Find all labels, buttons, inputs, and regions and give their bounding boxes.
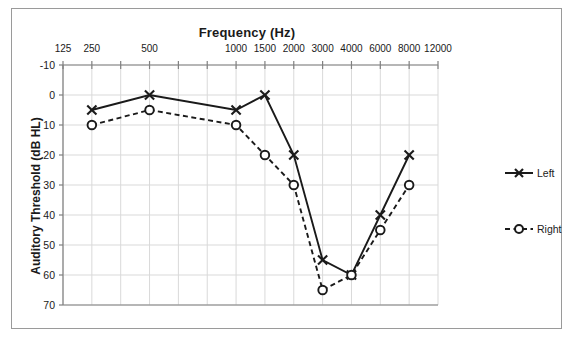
audiogram-figure: Frequency (Hz) Auditory Threshold (dB HL… (0, 0, 575, 345)
marker-circle (145, 106, 154, 115)
plot-area (12, 9, 563, 330)
data-series-layer (87, 90, 414, 294)
gridlines (63, 65, 438, 305)
legend-item-right[interactable]: Right (504, 220, 575, 238)
marker-circle (318, 286, 327, 295)
legend-item-left[interactable]: Left (504, 164, 575, 182)
marker-circle (232, 121, 241, 130)
marker-circle (347, 271, 356, 280)
marker-circle (376, 226, 385, 235)
legend-label: Right (537, 223, 562, 235)
legend-swatch-circle-icon (504, 222, 534, 236)
marker-circle-icon (515, 225, 523, 233)
marker-circle (405, 181, 414, 190)
legend-label: Left (537, 167, 555, 179)
legend-swatch-x-icon (504, 166, 534, 180)
marker-circle (88, 121, 97, 130)
series-line-right (92, 110, 409, 290)
legend: LeftRight (504, 164, 575, 276)
axis-ticks (59, 61, 438, 305)
marker-circle (289, 181, 298, 190)
marker-circle (261, 151, 270, 160)
chart-frame: Frequency (Hz) Auditory Threshold (dB HL… (11, 8, 562, 329)
